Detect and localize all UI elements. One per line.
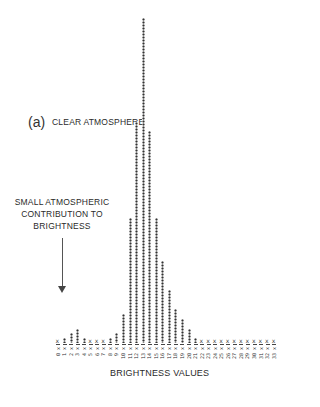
axis-dash <box>226 344 230 345</box>
histogram-bar <box>102 340 105 343</box>
axis-dash <box>161 344 165 345</box>
axis-dash <box>63 344 67 345</box>
histogram-bar <box>181 319 184 343</box>
axis-dash <box>266 344 270 345</box>
axis-dash <box>141 344 145 345</box>
axis-dash <box>69 344 73 345</box>
histogram-bar <box>63 338 66 343</box>
histogram-bar <box>266 340 269 343</box>
panel-label: (a) <box>28 114 45 130</box>
axis-dash <box>259 344 263 345</box>
x-tick-label: 21 x <box>193 347 198 359</box>
x-tick-label: 16 x <box>160 347 165 359</box>
histogram-bar <box>246 340 249 343</box>
axis-dash <box>148 344 152 345</box>
histogram-bar <box>273 340 276 343</box>
axis-dash <box>272 344 276 345</box>
histogram-bar <box>76 329 79 343</box>
histogram-bar <box>253 340 256 343</box>
x-tick-label: 20 x <box>187 347 192 359</box>
axis-dash <box>187 344 191 345</box>
x-tick-label: 5 x <box>88 347 93 356</box>
histogram-bar <box>214 340 217 343</box>
x-tick-label: 22 x <box>200 347 205 359</box>
histogram-bar <box>122 314 125 343</box>
axis-dash <box>180 344 184 345</box>
x-axis-label: BRIGHTNESS VALUES <box>110 368 209 378</box>
x-tick-label: 0 x <box>56 347 61 356</box>
histogram-bar <box>260 340 263 343</box>
x-tick-label: 12 x <box>134 347 139 359</box>
axis-dash <box>115 344 119 345</box>
axis-dash <box>76 344 80 345</box>
x-tick-label: 18 x <box>173 347 178 359</box>
histogram-bar <box>220 340 223 343</box>
x-tick-label: 24 x <box>213 347 218 359</box>
histogram-bar <box>96 340 99 343</box>
histogram-bar <box>142 18 145 343</box>
x-tick-label: 15 x <box>154 347 159 359</box>
x-tick-label: 7 x <box>101 347 106 356</box>
histogram-bar <box>115 333 118 343</box>
axis-dash <box>122 344 126 345</box>
x-tick-label: 33 x <box>272 347 277 359</box>
histogram-bar <box>240 340 243 343</box>
axis-dash <box>220 344 224 345</box>
histogram-bar <box>148 131 151 343</box>
histogram-bar <box>233 340 236 343</box>
axis-dash <box>246 344 250 345</box>
axis-dash <box>233 344 237 345</box>
histogram-bar <box>135 122 138 343</box>
axis-dash <box>89 344 93 345</box>
axis-dash <box>167 344 171 345</box>
x-tick-label: 10 x <box>121 347 126 359</box>
histogram-bar <box>174 309 177 343</box>
x-tick-label: 14 x <box>147 347 152 359</box>
x-tick-label: 31 x <box>259 347 264 359</box>
axis-dash <box>253 344 257 345</box>
histogram-bar <box>188 329 191 343</box>
x-tick-label: 9 x <box>114 347 119 356</box>
axis-dash <box>194 344 198 345</box>
x-tick-label: 2 x <box>69 347 74 356</box>
histogram-bar <box>227 340 230 343</box>
x-tick-label: 3 x <box>75 347 80 356</box>
axis-dash <box>128 344 132 345</box>
histogram-bar <box>207 340 210 343</box>
axis-dash <box>56 344 60 345</box>
histogram-bar <box>155 218 158 343</box>
axis-dash <box>102 344 106 345</box>
histogram-bar <box>129 218 132 343</box>
x-tick-label: 19 x <box>180 347 185 359</box>
x-tick-label: 29 x <box>245 347 250 359</box>
histogram-bar <box>89 340 92 343</box>
axis-dash <box>213 344 217 345</box>
histogram-bar <box>194 338 197 343</box>
axis-dash <box>82 344 86 345</box>
histogram-bar <box>83 338 86 343</box>
histogram-plot <box>56 14 280 343</box>
x-tick-label: 32 x <box>265 347 270 359</box>
x-tick-label: 23 x <box>206 347 211 359</box>
histogram-bar <box>57 340 60 343</box>
x-tick-label: 11 x <box>128 347 133 359</box>
axis-dash <box>174 344 178 345</box>
axis-dash <box>207 344 211 345</box>
axis-dash <box>135 344 139 345</box>
x-tick-label: 1 x <box>62 347 67 356</box>
axis-dash <box>95 344 99 345</box>
x-tick-label: 30 x <box>252 347 257 359</box>
histogram-bar <box>168 290 171 343</box>
histogram-bar <box>109 338 112 343</box>
histogram-bar <box>201 340 204 343</box>
x-tick-label: 27 x <box>232 347 237 359</box>
axis-dash <box>239 344 243 345</box>
x-tick-label: 25 x <box>219 347 224 359</box>
histogram-bar <box>161 261 164 343</box>
axis-dash <box>154 344 158 345</box>
histogram-bar <box>70 333 73 343</box>
x-tick-label: 13 x <box>141 347 146 359</box>
axis-dash <box>200 344 204 345</box>
x-tick-label: 4 x <box>82 347 87 356</box>
axis-dash <box>108 344 112 345</box>
